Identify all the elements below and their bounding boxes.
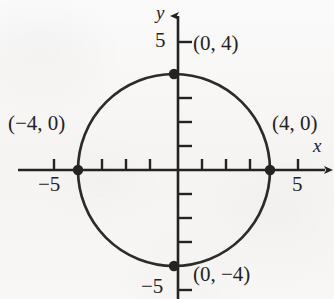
point-label-top: (0, 4) — [193, 33, 239, 54]
point-marker-right — [265, 165, 275, 175]
y-axis-ticks — [178, 42, 192, 290]
point-label-left: (−4, 0) — [8, 113, 65, 134]
x-tick-label-5: 5 — [292, 174, 303, 195]
point-label-bottom: (0, −4) — [193, 264, 250, 285]
y-tick-label-minus-5: −5 — [141, 276, 163, 297]
y-tick-label-5: 5 — [155, 30, 166, 51]
x-tick-label-minus-5: −5 — [38, 174, 60, 195]
circle-graph-figure: x y 5 −5 5 −5 (0, 4) (4, 0) (−4, 0) (0, … — [0, 0, 334, 299]
x-axis-ticks — [54, 159, 298, 170]
point-marker-bottom — [169, 261, 179, 271]
point-label-right: (4, 0) — [272, 113, 318, 134]
point-marker-top — [169, 69, 179, 79]
point-marker-left — [73, 165, 83, 175]
y-axis-name-label-x: x — [313, 136, 321, 155]
coordinate-plane-svg — [0, 0, 334, 299]
x-axis-name-label-y: y — [156, 3, 164, 22]
